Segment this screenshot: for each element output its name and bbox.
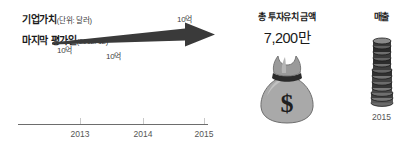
- axis-label-2014: 2014: [134, 129, 153, 139]
- value-label-middle: 10억: [106, 50, 121, 61]
- money-bag-icon: $: [256, 54, 318, 124]
- infographic-root: 기업가치(단위: 달러) 마지막 평가일(2012. 12) 10억 10억 1…: [0, 0, 413, 154]
- revenue-panel: 매출: [350, 0, 413, 154]
- valuation-panel: 기업가치(단위: 달러) 마지막 평가일(2012. 12) 10억 10억 1…: [0, 0, 222, 154]
- revenue-caption: 매출: [350, 10, 413, 23]
- coin-stack-icon: [369, 37, 395, 109]
- money-bag-wrapper: $: [228, 54, 346, 124]
- axis-label-2013: 2013: [71, 129, 90, 139]
- funding-amount: 7,200만: [228, 26, 346, 47]
- growth-arrow-icon: [52, 22, 215, 54]
- funding-panel: 총 투자유치 금액 7,200만 $: [228, 0, 346, 154]
- svg-text:$: $: [281, 89, 294, 118]
- value-label-start: 10억: [57, 44, 72, 55]
- funding-caption: 총 투자유치 금액: [228, 10, 346, 23]
- value-label-end: 10억: [177, 13, 192, 24]
- revenue-year: 2015: [350, 112, 413, 122]
- axis-label-2015: 2015: [195, 129, 214, 139]
- timeline-axis: [18, 124, 208, 125]
- coin-stack-wrapper: [350, 37, 413, 109]
